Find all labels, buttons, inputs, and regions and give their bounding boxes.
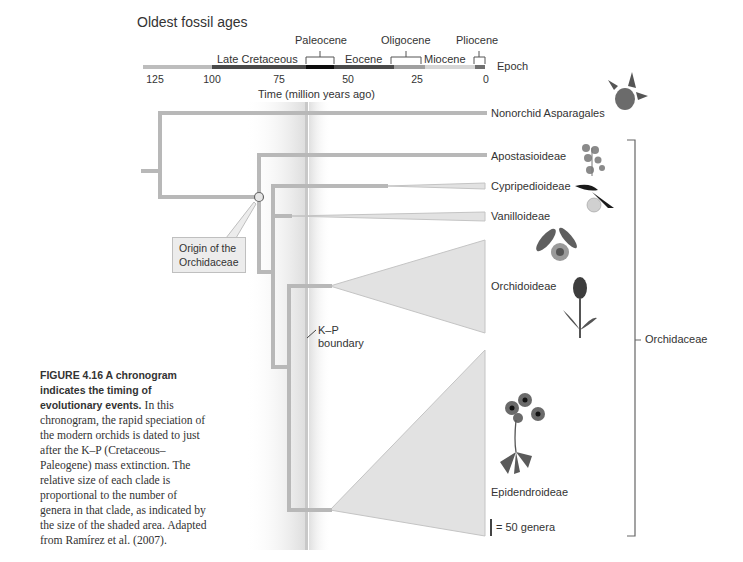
epoch-timebar bbox=[143, 65, 485, 69]
flower-icon-asparagales bbox=[608, 72, 648, 110]
figure-caption: FIGURE 4.16 A chronogram indicates the t… bbox=[40, 368, 208, 548]
kp-label-line2: boundary bbox=[318, 337, 364, 350]
kp-shading bbox=[245, 102, 306, 550]
clade-label-apostasioideae: Apostasioideae bbox=[491, 150, 566, 162]
orchidaceae-bracket bbox=[627, 140, 641, 536]
scale-bar bbox=[490, 519, 492, 536]
orchidaceae-label: Orchidaceae bbox=[645, 333, 707, 345]
clade-label-epidendroideae: Epidendroideae bbox=[491, 486, 568, 498]
epoch-brackets bbox=[306, 51, 485, 64]
clade-label-orchidoideae: Orchidoideae bbox=[491, 280, 556, 292]
kp-label-line1: K–P bbox=[318, 324, 364, 337]
origin-callout: Origin of the Orchidaceae bbox=[172, 237, 246, 273]
flower-icon-cypripedioideae bbox=[575, 185, 614, 212]
clade-label-nonorchid-asparagales: Nonorchid Asparagales bbox=[491, 107, 605, 119]
clade-label-cypripedioideae: Cypripedioideae bbox=[491, 180, 571, 192]
clade-label-vanilloideae: Vanilloideae bbox=[491, 210, 550, 222]
flower-icon-epidendroideae bbox=[500, 393, 545, 474]
caption-body: In this chronogram, the rapid speciation… bbox=[40, 399, 206, 547]
origin-node bbox=[255, 193, 264, 202]
flower-icon-apostasioideae bbox=[582, 144, 605, 176]
flower-icon-vanilloideae bbox=[533, 225, 579, 261]
origin-callout-line2: Orchidaceae bbox=[179, 255, 239, 269]
kp-boundary-label: K–P boundary bbox=[318, 324, 364, 350]
flower-icon-orchidoideae bbox=[563, 277, 597, 338]
scale-label: = 50 genera bbox=[496, 521, 555, 533]
kp-boundary-line bbox=[305, 102, 308, 550]
origin-callout-line1: Origin of the bbox=[179, 241, 239, 255]
